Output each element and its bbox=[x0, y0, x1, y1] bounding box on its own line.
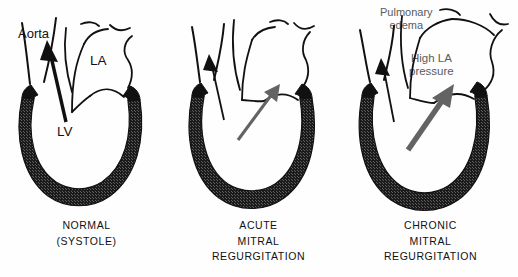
aorta-outline bbox=[192, 27, 200, 82]
panel-acute: Pulmonary edema High LA pressure ACUTE M… bbox=[172, 0, 345, 277]
caption-normal: NORMAL (SYSTOLE) bbox=[0, 218, 173, 249]
left-atrium-outline bbox=[252, 27, 275, 40]
heart-diagram-acute bbox=[172, 0, 345, 215]
lv-myocardium-wall bbox=[189, 96, 314, 209]
caption-line: MITRAL bbox=[344, 234, 517, 250]
heart-diagram-chronic bbox=[344, 0, 517, 215]
lv-myocardium-wall bbox=[19, 98, 142, 206]
regurgitant-jet-arrow bbox=[408, 84, 454, 150]
mitral-annulus-left bbox=[72, 96, 90, 112]
pulmonary-vein-upper-left bbox=[270, 20, 288, 24]
pulmonary-vein-upper-right bbox=[490, 14, 508, 25]
left-atrium-right-wall bbox=[125, 36, 132, 88]
aortic-valve-leaflet bbox=[65, 28, 72, 92]
mitral-annulus-left bbox=[410, 98, 434, 103]
label-aorta: Aorta bbox=[18, 28, 49, 41]
caption-line: (SYSTOLE) bbox=[0, 234, 173, 250]
label-la: LA bbox=[90, 55, 107, 68]
label-lv: LV bbox=[57, 126, 73, 139]
caption-line: ACUTE bbox=[172, 218, 345, 234]
aortic-outflow-arrow bbox=[203, 54, 224, 120]
caption-line: REGURGITATION bbox=[344, 249, 517, 265]
pulmonary-vein-upper-right bbox=[110, 25, 130, 30]
left-atrium-dome bbox=[452, 19, 494, 35]
caption-line: MITRAL bbox=[172, 234, 345, 250]
left-atrium-outline bbox=[84, 29, 108, 44]
anterior-mitral-leaflet bbox=[410, 38, 420, 98]
pulmonary-vein-upper-left bbox=[440, 9, 460, 15]
panel-normal: Aorta LA LV NORMAL (SYSTOLE) bbox=[0, 0, 173, 277]
mitral-regurgitation-figure: Aorta LA LV NORMAL (SYSTOLE) bbox=[0, 0, 518, 277]
caption-acute: ACUTE MITRAL REGURGITATION bbox=[172, 218, 345, 265]
left-atrium-right-wall bbox=[302, 32, 310, 88]
lv-myocardium-wall bbox=[359, 96, 489, 211]
caption-line: REGURGITATION bbox=[172, 249, 345, 265]
regurgitant-jet-arrow bbox=[238, 84, 280, 140]
aortic-valve-leaflet bbox=[401, 16, 408, 88]
left-atrium-outline bbox=[420, 19, 452, 38]
anterior-mitral-leaflet bbox=[242, 40, 252, 100]
aortic-valve-leaflet bbox=[233, 20, 240, 90]
pulmonary-vein-upper-left bbox=[81, 22, 99, 26]
aortic-outflow-arrow bbox=[375, 58, 394, 122]
pulmonary-vein-upper-right bbox=[294, 23, 314, 29]
lv-wall-upper-left bbox=[192, 83, 208, 97]
lv-wall-upper-left bbox=[22, 85, 38, 99]
lv-wall-upper-right bbox=[123, 86, 140, 101]
mitral-annulus-left bbox=[242, 100, 264, 101]
caption-line: CHRONIC bbox=[344, 218, 517, 234]
caption-chronic: CHRONIC MITRAL REGURGITATION bbox=[344, 218, 517, 265]
left-atrium-right-wall bbox=[482, 30, 502, 92]
caption-line: NORMAL bbox=[0, 218, 173, 234]
posterior-mitral-leaflet bbox=[90, 89, 124, 97]
aorta-outline bbox=[360, 30, 370, 82]
lv-wall-upper-left bbox=[362, 83, 378, 97]
panel-chronic: Dilated LA with less elevated pressure C… bbox=[344, 0, 517, 277]
